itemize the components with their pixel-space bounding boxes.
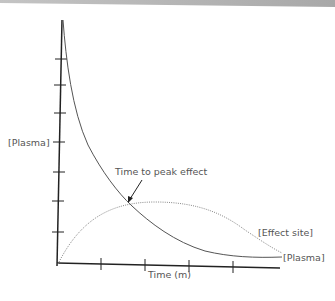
pharmacokinetic-chart: [Plasma] Time (m) Time to peak effect [E… [0, 0, 335, 301]
x-axis [57, 263, 280, 268]
effect-site-curve [58, 202, 282, 264]
plasma-curve [63, 20, 282, 257]
y-axis-label: [Plasma] [8, 137, 50, 148]
annotation-label: Time to peak effect [114, 166, 208, 177]
annotation-arrow [130, 180, 142, 199]
x-axis-label: Time (m) [147, 269, 191, 280]
plasma-curve-label: [Plasma] [283, 252, 325, 263]
effect-site-label: [Effect site] [258, 227, 313, 238]
y-axis [57, 20, 62, 266]
arrow-head-icon [128, 196, 133, 203]
